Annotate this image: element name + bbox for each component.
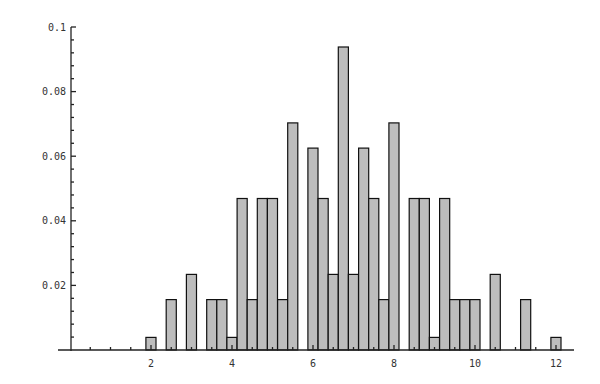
histogram-bar [247, 300, 257, 350]
histogram-bar [237, 199, 247, 351]
histogram-bar [257, 199, 267, 351]
histogram-bars [146, 47, 561, 350]
y-tick-label: 0.08 [42, 86, 66, 97]
histogram-bar [389, 123, 399, 350]
x-tick-label: 6 [310, 358, 316, 369]
histogram-bar [186, 274, 196, 350]
x-tick-label: 8 [391, 358, 397, 369]
x-tick-label: 10 [469, 358, 481, 369]
histogram-bar [521, 300, 531, 350]
histogram-bar [318, 199, 328, 351]
histogram-bar [308, 148, 318, 350]
histogram-bar [217, 300, 227, 350]
y-tick-label: 0.04 [42, 215, 66, 226]
histogram-bar [267, 199, 277, 351]
histogram-bar [470, 300, 480, 350]
histogram-bar [409, 199, 419, 351]
histogram-bar [440, 199, 450, 351]
histogram-bar [288, 123, 298, 350]
y-tick-label: 0.06 [42, 151, 66, 162]
histogram-bar [207, 300, 217, 350]
histogram-bar [450, 300, 460, 350]
histogram-bar [166, 300, 176, 350]
x-tick-label: 12 [550, 358, 562, 369]
histogram-bar [328, 274, 338, 350]
y-tick-label: 0.1 [48, 22, 66, 33]
histogram-bar [369, 199, 379, 351]
histogram-bar [338, 47, 348, 350]
histogram-bar [278, 300, 288, 350]
histogram-bar [348, 274, 358, 350]
x-tick-label: 2 [148, 358, 154, 369]
histogram-bar [379, 300, 389, 350]
histogram-bar [490, 274, 500, 350]
histogram-bar [359, 148, 369, 350]
x-tick-label: 4 [229, 358, 235, 369]
histogram-bar [419, 199, 429, 351]
histogram-bar [460, 300, 470, 350]
histogram-chart: 0.020.040.060.080.1 24681012 [0, 0, 600, 384]
y-tick-label: 0.02 [42, 280, 66, 291]
